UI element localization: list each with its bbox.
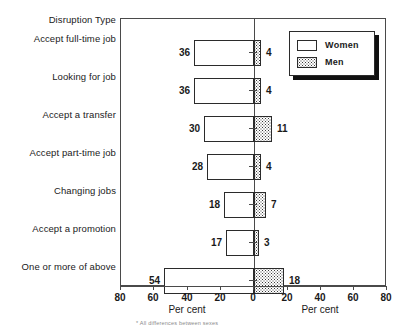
x-tick-mark-5 bbox=[287, 286, 288, 290]
x-tick-label-2: 40 bbox=[172, 292, 202, 303]
value-men-5: 3 bbox=[264, 237, 270, 248]
bar-row-6: 54 18 bbox=[121, 268, 387, 294]
x-tick-mark-6 bbox=[320, 286, 321, 290]
value-men-0: 4 bbox=[266, 47, 272, 58]
x-tick-mark-7 bbox=[353, 286, 354, 290]
bar-men-1 bbox=[254, 78, 261, 104]
chart-footnote: * All differences between sexes bbox=[136, 320, 218, 326]
value-women-5: 17 bbox=[196, 237, 222, 248]
bar-women-0 bbox=[194, 40, 254, 66]
zero-tick-5 bbox=[249, 242, 257, 243]
row-label-2: Accept a transfer bbox=[0, 109, 116, 120]
x-tick-mark-3 bbox=[220, 286, 221, 290]
bar-row-2: 30 11 bbox=[121, 116, 387, 142]
value-men-6: 18 bbox=[289, 275, 300, 286]
x-axis-title-right: Per cent bbox=[285, 304, 355, 315]
row-label-3: Accept part-time job bbox=[0, 147, 116, 158]
row-label-0: Accept full-time job bbox=[0, 33, 116, 44]
bar-women-1 bbox=[194, 78, 254, 104]
bar-men-2 bbox=[254, 116, 272, 142]
zero-tick-3 bbox=[249, 166, 257, 167]
zero-tick-2 bbox=[249, 128, 257, 129]
x-tick-label-8: 80 bbox=[371, 292, 401, 303]
value-women-0: 36 bbox=[164, 47, 190, 58]
value-women-4: 18 bbox=[194, 199, 220, 210]
zero-tick-1 bbox=[249, 90, 257, 91]
bar-men-0 bbox=[254, 40, 261, 66]
bar-women-5 bbox=[226, 230, 254, 256]
bar-men-5 bbox=[254, 230, 259, 256]
x-tick-label-3: 20 bbox=[205, 292, 235, 303]
x-tick-label-7: 60 bbox=[338, 292, 368, 303]
x-tick-label-4: 0 bbox=[238, 292, 268, 303]
x-tick-mark-4 bbox=[253, 286, 254, 290]
value-men-1: 4 bbox=[266, 85, 272, 96]
legend-swatch-men-icon bbox=[297, 57, 317, 68]
bar-men-3 bbox=[254, 154, 261, 180]
bar-row-5: 17 3 bbox=[121, 230, 387, 256]
zero-tick-0 bbox=[249, 52, 257, 53]
x-tick-label-6: 40 bbox=[305, 292, 335, 303]
bar-men-6 bbox=[254, 268, 284, 294]
value-men-2: 11 bbox=[277, 123, 288, 134]
bar-men-4 bbox=[254, 192, 266, 218]
value-women-2: 30 bbox=[174, 123, 200, 134]
value-women-6: 54 bbox=[134, 275, 160, 286]
legend-label-men: Men bbox=[325, 57, 344, 67]
row-label-header: Disruption Type bbox=[0, 14, 116, 25]
x-tick-mark-2 bbox=[187, 286, 188, 290]
x-tick-mark-0 bbox=[120, 286, 121, 290]
legend-swatch-women-icon bbox=[297, 40, 317, 51]
value-men-4: 7 bbox=[271, 199, 277, 210]
bar-row-3: 28 4 bbox=[121, 154, 387, 180]
bar-women-3 bbox=[207, 154, 254, 180]
row-label-column: Disruption Type Accept full-time job Loo… bbox=[0, 0, 116, 295]
bar-women-6 bbox=[164, 268, 254, 294]
zero-tick-6 bbox=[249, 280, 257, 281]
bar-women-4 bbox=[224, 192, 254, 218]
x-tick-mark-8 bbox=[386, 286, 387, 290]
row-label-6: One or more of above bbox=[0, 261, 116, 272]
chart-plot-area: 36 4 36 4 30 11 28 4 18 7 17 3 bbox=[120, 18, 386, 286]
bar-row-1: 36 4 bbox=[121, 78, 387, 104]
value-men-3: 4 bbox=[266, 161, 272, 172]
bar-women-2 bbox=[204, 116, 254, 142]
row-label-5: Accept a promotion bbox=[0, 223, 116, 234]
chart-legend: Women Men bbox=[289, 31, 375, 76]
bar-row-4: 18 7 bbox=[121, 192, 387, 218]
row-label-1: Looking for job bbox=[0, 71, 116, 82]
x-axis-title-left: Per cent bbox=[152, 304, 222, 315]
row-label-4: Changing jobs bbox=[0, 185, 116, 196]
value-women-1: 36 bbox=[164, 85, 190, 96]
x-tick-label-1: 60 bbox=[138, 292, 168, 303]
x-tick-label-5: 20 bbox=[272, 292, 302, 303]
legend-label-women: Women bbox=[325, 40, 359, 50]
x-tick-mark-1 bbox=[153, 286, 154, 290]
value-women-3: 28 bbox=[177, 161, 203, 172]
x-tick-label-0: 80 bbox=[105, 292, 135, 303]
zero-tick-4 bbox=[249, 204, 257, 205]
